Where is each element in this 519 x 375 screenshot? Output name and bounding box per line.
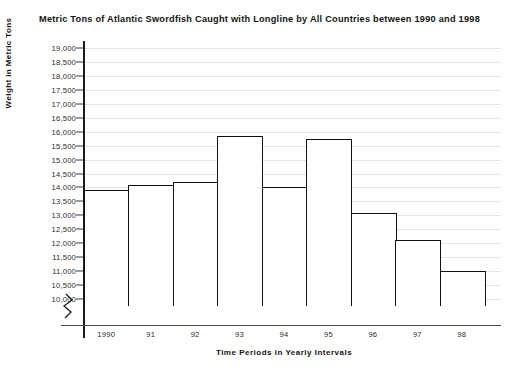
x-axis-tick-label: 98	[457, 330, 466, 339]
y-axis-tick-label: 16,000	[18, 127, 76, 136]
y-axis-tick-mark	[76, 75, 83, 76]
bar	[306, 139, 352, 306]
y-axis-tick-label: 19,000	[18, 43, 76, 52]
x-axis-tick-label: 94	[280, 330, 289, 339]
x-axis-line	[60, 325, 501, 326]
bar	[217, 136, 263, 306]
x-axis-tick-label: 97	[413, 330, 422, 339]
y-axis-tick-label: 11,000	[18, 267, 76, 276]
y-axis-tick-mark	[76, 243, 83, 244]
y-axis-tick-label: 16,500	[18, 113, 76, 122]
y-axis-tick-label: 13,000	[18, 211, 76, 220]
bar	[262, 187, 308, 306]
y-axis-tick-label: 18,500	[18, 57, 76, 66]
y-axis-tick-label: 14,500	[18, 169, 76, 178]
y-axis-tick-label: 17,000	[18, 99, 76, 108]
y-axis-tick-label: 11,500	[18, 253, 76, 262]
y-axis-tick-labels: 19,00018,50018,00017,50017,00016,50016,0…	[14, 41, 76, 306]
bar	[351, 213, 397, 306]
bar	[84, 190, 130, 306]
y-axis-tick-label: 17,500	[18, 85, 76, 94]
y-axis-tick-label: 12,000	[18, 239, 76, 248]
x-axis-tick-label: 95	[324, 330, 333, 339]
x-axis-title: Time Periods in Yearly Intervals	[84, 348, 484, 357]
y-axis-tick-mark	[76, 117, 83, 118]
y-axis-tick-mark	[76, 47, 83, 48]
y-axis-tick-label: 18,000	[18, 71, 76, 80]
y-axis-tick-mark	[76, 257, 83, 258]
bar	[128, 185, 174, 306]
x-axis-tick-label: 93	[235, 330, 244, 339]
y-axis-tick-mark	[76, 271, 83, 272]
x-axis-tick-labels: 19909192939495969798	[84, 330, 484, 346]
y-axis-tick-mark	[76, 89, 83, 90]
bar	[395, 240, 441, 306]
y-axis-tick-label: 12,500	[18, 225, 76, 234]
y-axis-tick-mark	[76, 145, 83, 146]
chart-title: Metric Tons of Atlantic Swordfish Caught…	[0, 14, 519, 24]
plot-area	[84, 41, 484, 306]
axis-break-icon	[58, 292, 84, 320]
y-axis-tick-mark	[76, 201, 83, 202]
y-axis-tick-mark	[76, 159, 83, 160]
y-axis-tick-mark	[76, 187, 83, 188]
y-axis-tick-label: 15,500	[18, 141, 76, 150]
y-axis-tick-mark	[76, 173, 83, 174]
y-axis-tick-label: 14,000	[18, 183, 76, 192]
y-axis-tick-label: 10,500	[18, 281, 76, 290]
y-axis-title: Weight in Metric Tons	[4, 0, 13, 128]
y-axis-tick-mark	[76, 61, 83, 62]
y-axis-tick-label: 15,000	[18, 155, 76, 164]
bar	[173, 182, 219, 306]
y-axis-tick-mark	[76, 285, 83, 286]
x-axis-tick-label: 96	[368, 330, 377, 339]
x-axis-tick-label: 91	[146, 330, 155, 339]
y-axis-tick-mark	[76, 229, 83, 230]
y-axis-tick-mark	[76, 103, 83, 104]
bar-chart: Metric Tons of Atlantic Swordfish Caught…	[0, 0, 519, 375]
y-axis-tick-label: 13,500	[18, 197, 76, 206]
bar	[440, 271, 486, 306]
x-axis-tick-label: 92	[191, 330, 200, 339]
y-axis-tick-mark	[76, 215, 83, 216]
y-axis-tick-mark	[76, 131, 83, 132]
x-axis-tick-label: 1990	[97, 330, 115, 339]
